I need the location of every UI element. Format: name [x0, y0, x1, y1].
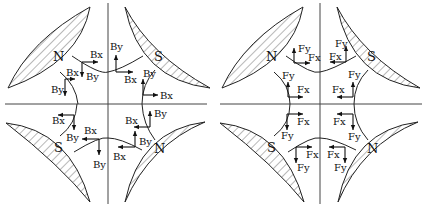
quadrupole-diagram: N S S N Bx By By Bx Bx By By Bx Bx By: [0, 0, 423, 207]
pole-label-s-tr: S: [154, 49, 163, 64]
svg-text:Bx: Bx: [160, 90, 173, 101]
svg-text:Fx: Fx: [327, 149, 340, 160]
pole-label-s-bl: S: [267, 140, 276, 155]
svg-text:Bx: Bx: [113, 151, 126, 162]
pole-top-right: [125, 7, 210, 88]
svg-text:Fy: Fy: [282, 70, 295, 81]
svg-text:Fx: Fx: [308, 52, 321, 63]
svg-text:Bx: Bx: [125, 115, 138, 126]
pole-label-n-tl: N: [53, 49, 64, 64]
svg-text:By: By: [143, 68, 156, 79]
svg-text:By: By: [86, 71, 99, 82]
svg-text:Fx: Fx: [297, 116, 310, 127]
right-panel-force: N S S N Fy Fx Fy Fx Fy Fx Fy Fx Fx Fy: [220, 3, 422, 204]
svg-text:Fy: Fy: [335, 38, 348, 49]
svg-text:Bx: Bx: [52, 115, 65, 126]
svg-text:Fx: Fx: [332, 84, 345, 95]
svg-text:Fy: Fy: [348, 131, 361, 142]
svg-text:Fy: Fy: [281, 130, 294, 141]
svg-text:Bx: Bx: [124, 74, 137, 85]
svg-text:Fx: Fx: [333, 116, 346, 127]
svg-text:By: By: [139, 136, 152, 147]
svg-text:Fx: Fx: [306, 149, 319, 160]
pole-label-n-tl: N: [266, 49, 277, 64]
svg-text:Fy: Fy: [334, 162, 347, 173]
pole-label-n-br: N: [367, 141, 378, 156]
svg-text:By: By: [51, 84, 64, 95]
svg-text:Bx: Bx: [84, 125, 97, 136]
svg-text:Bx: Bx: [90, 49, 103, 60]
svg-text:By: By: [93, 159, 106, 170]
pole-bottom-right: [125, 122, 205, 202]
svg-text:Fx: Fx: [329, 51, 342, 62]
pole-label-s-bl: S: [54, 140, 63, 155]
svg-text:Fy: Fy: [348, 69, 361, 80]
arc-bottom: [288, 138, 356, 152]
svg-text:Fx: Fx: [297, 84, 310, 95]
svg-text:By: By: [154, 108, 167, 119]
left-panel-field: N S S N Bx By By Bx Bx By By Bx Bx By: [5, 3, 210, 204]
pole-label-n-br: N: [154, 141, 165, 156]
svg-text:Fy: Fy: [297, 162, 310, 173]
svg-text:By: By: [66, 132, 79, 143]
svg-text:Bx: Bx: [66, 67, 79, 78]
pole-label-s-tr: S: [367, 49, 376, 64]
svg-text:By: By: [110, 41, 123, 52]
